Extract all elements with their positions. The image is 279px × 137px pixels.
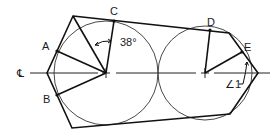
centerline-symbol: ℄: [16, 67, 24, 79]
angle-38-label: 38°: [120, 36, 137, 48]
tangent-polygon: [47, 16, 258, 128]
angle-1-label: ∠1: [225, 78, 241, 90]
label-b: B: [43, 93, 50, 105]
centerline: [30, 68, 270, 78]
left-radii: [57, 16, 114, 95]
label-e: E: [244, 41, 251, 53]
right-radii: [205, 30, 242, 73]
label-c: C: [110, 5, 118, 17]
label-d: D: [207, 16, 215, 28]
label-a: A: [42, 40, 50, 52]
angle-38-arc: [95, 39, 111, 46]
tangent-construction-diagram: A B C D E ℄ 38° ∠1: [0, 0, 279, 137]
